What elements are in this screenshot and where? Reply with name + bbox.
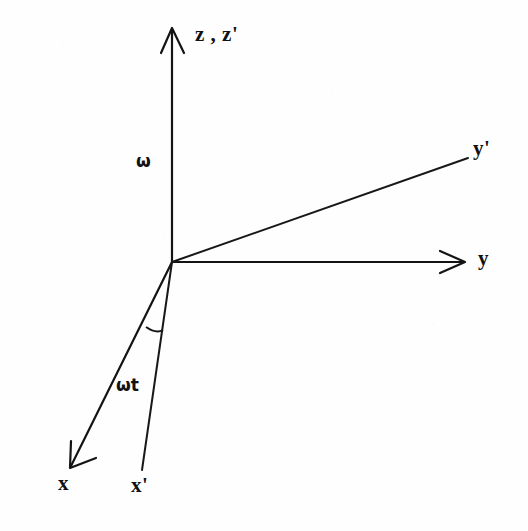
x-axis-arrowhead <box>70 441 96 468</box>
figure-canvas: z , z' y' y x x' ω ωt <box>0 0 528 531</box>
y-prime-axis-label: y' <box>473 138 490 159</box>
y-axis-label: y <box>478 248 489 269</box>
diagram-svg <box>0 0 528 531</box>
x-prime-axis-label: x' <box>131 475 148 496</box>
omega-t-label: ωt <box>116 377 139 394</box>
omega-t-angle-arc <box>146 327 163 331</box>
y-prime-axis-line <box>172 158 468 262</box>
omega-label: ω <box>136 153 151 170</box>
x-axis-label: x <box>58 473 69 494</box>
z-axis-label: z , z' <box>195 24 238 45</box>
